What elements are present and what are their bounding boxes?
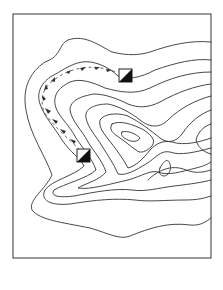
arrow-icon [45, 108, 51, 114]
contour-line-8 [121, 131, 140, 141]
arrow-icon [66, 70, 71, 74]
arrow-icon [42, 95, 46, 101]
contour-line-7 [111, 122, 154, 152]
contour-line-3 [53, 72, 211, 197]
arrow-icon [94, 67, 100, 70]
topographic-map [0, 0, 223, 290]
control-marker-upper [119, 69, 132, 82]
arrow-icons [42, 67, 112, 144]
contour-lines [25, 38, 211, 237]
arrow-icon [44, 84, 48, 90]
contour-line-1 [25, 38, 211, 237]
control-marker-lower [77, 149, 90, 162]
arrow-icon [80, 67, 86, 71]
contour-line-4 [70, 84, 211, 188]
contour-line-11 [148, 168, 211, 180]
contour-line-5 [86, 96, 211, 174]
route-trail [42, 67, 116, 150]
map-frame [13, 14, 211, 258]
contour-line-6 [100, 110, 211, 168]
